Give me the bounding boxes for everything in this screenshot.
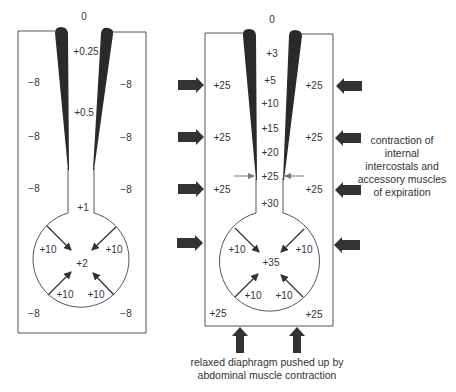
push-arrow-left-icon xyxy=(335,130,361,146)
recoil-pressure: +10 xyxy=(57,289,74,300)
pleural-pressure: +25 xyxy=(214,80,231,91)
recoil-pressure: +10 xyxy=(229,244,246,255)
pleural-pressure: −8 xyxy=(28,183,40,194)
equal-pressure-point: +25 xyxy=(262,171,279,182)
svg-text:abdominal muscle contraction: abdominal muscle contraction xyxy=(198,369,337,381)
airway-pressure: +10 xyxy=(262,98,279,109)
recoil-pressure: +10 xyxy=(40,244,57,255)
chest-wall-compression-arrows-right xyxy=(334,78,362,253)
push-arrow-up-icon xyxy=(232,327,248,353)
pleural-pressure: −8 xyxy=(28,77,40,88)
svg-text:of expiration: of expiration xyxy=(373,186,430,198)
mouth-pressure: 0 xyxy=(269,14,275,25)
push-arrow-right-icon xyxy=(178,77,204,93)
pleural-pressure: −8 xyxy=(120,308,132,319)
pleural-pressure: +25 xyxy=(210,308,227,319)
airway-pressure: +15 xyxy=(262,123,279,134)
diaphragm-push-arrows xyxy=(232,327,305,353)
pleural-pressure: +25 xyxy=(306,184,323,195)
airway-wall-wedge-right xyxy=(283,30,302,180)
airway-wall-wedge-left xyxy=(55,27,69,170)
recoil-pressure: +10 xyxy=(88,289,105,300)
pleural-pressure: +25 xyxy=(306,80,323,91)
push-arrow-left-icon xyxy=(336,78,362,94)
pleural-pressure: +25 xyxy=(214,184,231,195)
recoil-pressure: +10 xyxy=(106,244,123,255)
diaphragm-annotation: relaxed diaphragm pushed up by abdominal… xyxy=(191,356,345,381)
chest-wall-compression-arrows-left xyxy=(177,77,204,251)
push-arrow-right-icon xyxy=(178,181,204,197)
airway-pressure: +30 xyxy=(262,198,279,209)
airway-wall-wedge-left xyxy=(243,29,257,180)
svg-text:contraction of: contraction of xyxy=(370,134,433,146)
expiration-muscles-annotation: contraction of internal intercostals and… xyxy=(358,134,447,198)
airway-pressure: +20 xyxy=(262,147,279,158)
pleural-pressure: −8 xyxy=(120,132,132,143)
airway-alveolus-outline xyxy=(33,168,129,307)
pleural-pressure: −8 xyxy=(120,184,132,195)
left-diagram-passive: 0 +0.25 +0.5 +1 −8 −8 −8 −8 −8 −8 −8 −8 … xyxy=(18,11,146,333)
airway-pressure: +1 xyxy=(77,202,89,213)
svg-text:internal: internal xyxy=(385,147,419,159)
mouth-pressure: 0 xyxy=(81,11,87,22)
pleural-pressure: −8 xyxy=(28,308,40,319)
push-arrow-right-icon xyxy=(178,129,204,145)
pleural-pressure: −8 xyxy=(28,131,40,142)
recoil-pressure: +10 xyxy=(276,290,293,301)
pleural-pressure: +25 xyxy=(214,132,231,143)
svg-text:relaxed diaphragm pushed up by: relaxed diaphragm pushed up by xyxy=(191,356,345,368)
airway-pressure: +0.25 xyxy=(73,46,99,57)
recoil-pressure: +10 xyxy=(296,244,313,255)
pleural-pressure: +25 xyxy=(306,309,323,320)
push-arrow-right-icon xyxy=(177,235,203,251)
push-arrow-left-icon xyxy=(334,237,360,253)
svg-text:accessory muscles: accessory muscles xyxy=(358,173,447,185)
airway-pressure: +5 xyxy=(264,75,276,86)
alveolar-pressure: +35 xyxy=(263,257,280,268)
airway-pressure-diagram: 0 +0.25 +0.5 +1 −8 −8 −8 −8 −8 −8 −8 −8 … xyxy=(0,0,456,392)
svg-text:intercostals and: intercostals and xyxy=(365,160,439,172)
alveolar-pressure: +2 xyxy=(76,258,88,269)
pleural-pressure: −8 xyxy=(120,79,132,90)
right-diagram-forced-expiration: 0 +3 +5 +10 +15 +20 +25 +30 +25 +25 +25 … xyxy=(177,14,362,353)
airway-pressure: +0.5 xyxy=(74,107,94,118)
airway-pressure: +3 xyxy=(266,48,278,59)
pleural-pressure: +25 xyxy=(306,132,323,143)
recoil-pressure: +10 xyxy=(245,290,262,301)
push-arrow-up-icon xyxy=(289,327,305,353)
